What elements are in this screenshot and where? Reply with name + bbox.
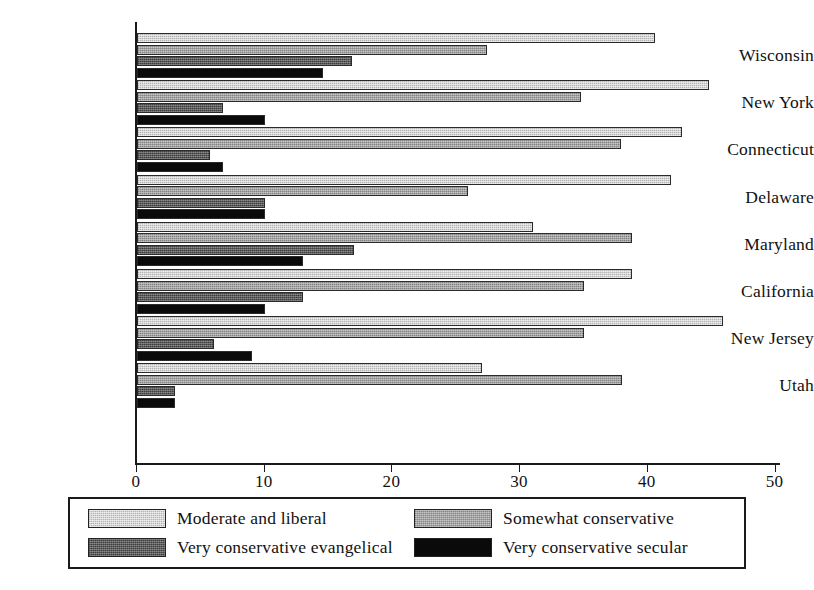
bar-new-jersey-series-3: [137, 351, 252, 361]
legend-swatch-very-conservative-secular: [414, 538, 492, 557]
x-axis-line: [135, 463, 780, 465]
bar-wisconsin-series-1: [137, 45, 487, 55]
x-tick-label: 50: [766, 472, 784, 492]
bar-group-delaware: [137, 175, 797, 221]
bar-group-utah: [137, 363, 797, 409]
x-tick-label: 30: [510, 472, 528, 492]
x-tick-label: 40: [638, 472, 656, 492]
x-tick: [775, 464, 776, 472]
legend-label: Very conservative evangelical: [177, 537, 393, 558]
bar-new-york-series-1: [137, 92, 581, 102]
bar-new-york-series-0: [137, 80, 709, 90]
x-tick-label: 10: [255, 472, 273, 492]
bar-group-new-york: [137, 80, 797, 126]
legend-item-very-conservative-secular[interactable]: Very conservative secular: [414, 537, 734, 558]
legend-label: Somewhat conservative: [503, 508, 674, 529]
bar-new-jersey-series-2: [137, 339, 214, 349]
bar-delaware-series-0: [137, 175, 671, 185]
bar-delaware-series-1: [137, 186, 468, 196]
bar-california-series-0: [137, 269, 632, 279]
bar-new-jersey-series-0: [137, 316, 723, 326]
bar-utah-series-2: [137, 386, 175, 396]
bar-delaware-series-2: [137, 198, 265, 208]
bar-utah-series-1: [137, 375, 622, 385]
bar-group-new-jersey: [137, 316, 797, 362]
legend-swatch-very-conservative-evangelical: [88, 538, 166, 557]
bar-delaware-series-3: [137, 209, 265, 219]
x-tick-label: 20: [383, 472, 401, 492]
legend-swatch-somewhat-conservative: [414, 509, 492, 528]
x-tick-label: 0: [132, 472, 141, 492]
legend: Moderate and liberalSomewhat conservativ…: [68, 497, 746, 569]
bar-connecticut-series-1: [137, 139, 621, 149]
legend-swatch-moderate-and-liberal: [88, 509, 166, 528]
bar-california-series-1: [137, 281, 584, 291]
bar-group-connecticut: [137, 127, 797, 173]
bar-group-california: [137, 269, 797, 315]
legend-item-moderate-and-liberal[interactable]: Moderate and liberal: [88, 508, 408, 529]
x-tick: [264, 464, 265, 472]
bar-new-york-series-3: [137, 115, 265, 125]
bar-chart: 01020304050 WisconsinNew YorkConnecticut…: [0, 0, 814, 590]
x-tick: [391, 464, 392, 472]
bar-group-maryland: [137, 222, 797, 268]
x-tick: [519, 464, 520, 472]
bar-connecticut-series-0: [137, 127, 682, 137]
legend-label: Very conservative secular: [503, 537, 688, 558]
bar-utah-series-3: [137, 398, 175, 408]
bar-new-jersey-series-1: [137, 328, 584, 338]
bar-california-series-3: [137, 304, 265, 314]
bar-maryland-series-0: [137, 222, 533, 232]
bar-wisconsin-series-2: [137, 56, 352, 66]
x-tick: [136, 464, 137, 472]
bar-utah-series-0: [137, 363, 482, 373]
legend-item-very-conservative-evangelical[interactable]: Very conservative evangelical: [88, 537, 408, 558]
bar-group-wisconsin: [137, 33, 797, 79]
legend-item-somewhat-conservative[interactable]: Somewhat conservative: [414, 508, 734, 529]
bar-connecticut-series-3: [137, 162, 223, 172]
bar-wisconsin-series-3: [137, 68, 323, 78]
x-tick: [647, 464, 648, 472]
bar-maryland-series-1: [137, 233, 632, 243]
legend-label: Moderate and liberal: [177, 508, 327, 529]
bar-new-york-series-2: [137, 103, 223, 113]
bar-california-series-2: [137, 292, 303, 302]
bar-wisconsin-series-0: [137, 33, 655, 43]
bar-connecticut-series-2: [137, 150, 210, 160]
bar-maryland-series-2: [137, 245, 354, 255]
bar-maryland-series-3: [137, 256, 303, 266]
plot-area: 01020304050 WisconsinNew YorkConnecticut…: [0, 0, 814, 470]
